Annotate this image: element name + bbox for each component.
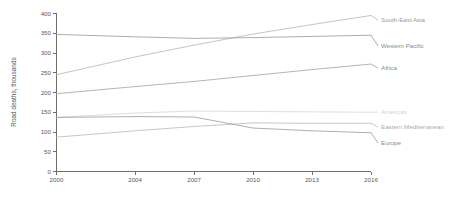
series-line <box>57 34 372 38</box>
series-leader-line <box>371 64 378 68</box>
series-label-africa: Africa <box>381 64 397 71</box>
series-leader-line <box>371 133 378 143</box>
series-leader-line <box>371 35 378 46</box>
y-axis-ticks: 050100150200250300350400 <box>41 10 57 175</box>
x-tick-label: 2004 <box>128 176 142 183</box>
chart-canvas: 050100150200250300350400 200020042007201… <box>0 0 463 200</box>
y-tick-label: 250 <box>41 69 52 76</box>
y-axis-title: Road deaths, thousands <box>10 57 17 126</box>
x-tick-label: 2000 <box>50 176 64 183</box>
series-line <box>57 117 372 133</box>
y-tick-label: 150 <box>41 108 52 115</box>
x-tick-label: 2010 <box>246 176 260 183</box>
series-label-layer: South-East AsiaWestern PacificAfricaAmer… <box>381 16 445 146</box>
y-tick-label: 50 <box>44 148 51 155</box>
series-label-western-pacific: Western Pacific <box>381 42 424 49</box>
y-tick-label: 300 <box>41 49 52 56</box>
series-line <box>57 15 372 74</box>
y-tick-label: 350 <box>41 29 52 36</box>
series-layer <box>57 15 379 143</box>
series-label-eastern-mediterranean: Eastern Mediterranean <box>381 123 445 130</box>
series-label-europe: Europe <box>381 139 402 146</box>
series-leader-line <box>371 123 378 127</box>
y-tick-label: 0 <box>48 168 52 175</box>
series-label-americas: Americas <box>381 108 407 115</box>
series-leader-line <box>371 15 378 20</box>
y-tick-label: 200 <box>41 89 52 96</box>
series-line <box>57 123 372 137</box>
x-tick-label: 2007 <box>187 176 201 183</box>
x-tick-label: 2013 <box>305 176 319 183</box>
series-line <box>57 111 372 117</box>
x-tick-label: 2016 <box>364 176 378 183</box>
line-chart: 050100150200250300350400 200020042007201… <box>0 0 463 200</box>
y-tick-label: 400 <box>41 10 52 17</box>
x-axis-ticks: 200020042007201020132016 <box>50 172 379 184</box>
y-tick-label: 100 <box>41 128 52 135</box>
series-line <box>57 64 372 94</box>
series-label-south-east-asia: South-East Asia <box>381 16 426 23</box>
